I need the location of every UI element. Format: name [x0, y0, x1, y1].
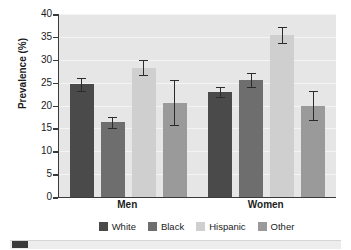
error-bar-cap-upper	[108, 117, 117, 118]
error-bar-cap-upper	[216, 87, 225, 88]
group-label-men: Men	[58, 199, 197, 210]
legend-swatch-icon	[148, 222, 157, 231]
y-axis-tick-label: 25	[24, 77, 52, 88]
bar-white-women	[208, 92, 232, 197]
footer-swatch	[12, 241, 28, 248]
error-bar-cap-upper	[139, 60, 148, 61]
error-bar-cap-upper	[247, 73, 256, 74]
error-bar-cap-lower	[139, 75, 148, 76]
bar-black-women	[239, 80, 263, 197]
footer-strip	[10, 240, 341, 249]
error-bar-line	[313, 91, 314, 120]
y-axis-tick-label: 15	[24, 122, 52, 133]
error-bar-line	[220, 87, 221, 97]
error-bar-line	[251, 73, 252, 87]
bar-hispanic-men	[132, 68, 156, 197]
bar-black-men	[101, 122, 125, 197]
error-bar-cap-upper	[309, 91, 318, 92]
error-bar-line	[143, 60, 144, 75]
error-bar-cap-upper	[278, 27, 287, 28]
y-axis-tick-label: 10	[24, 145, 52, 156]
legend-swatch-icon	[99, 222, 108, 231]
group-label-women: Women	[197, 199, 336, 210]
error-bar-line	[282, 27, 283, 43]
gridline	[59, 83, 336, 84]
chart-legend: WhiteBlackHispanicOther	[58, 221, 335, 232]
error-bar-cap-lower	[247, 87, 256, 88]
legend-item-other[interactable]: Other	[258, 221, 295, 232]
gridline	[59, 14, 336, 15]
legend-label: White	[112, 221, 136, 232]
gridline	[59, 106, 336, 107]
gridline	[59, 37, 336, 38]
error-bar-cap-lower	[309, 120, 318, 121]
y-axis-tick-label: 35	[24, 31, 52, 42]
y-axis-tick-label: 5	[24, 168, 52, 179]
error-bar-cap-lower	[278, 43, 287, 44]
legend-swatch-icon	[196, 222, 205, 231]
legend-swatch-icon	[258, 222, 267, 231]
legend-item-black[interactable]: Black	[148, 221, 184, 232]
legend-label: Hispanic	[209, 221, 245, 232]
bar-hispanic-women	[270, 35, 294, 197]
error-bar-cap-lower	[216, 97, 225, 98]
legend-item-white[interactable]: White	[99, 221, 136, 232]
error-bar-line	[81, 78, 82, 91]
error-bar-cap-lower	[108, 128, 117, 129]
error-bar-line	[174, 80, 175, 125]
chart-container: Prevalence (%) 4035302520151050 MenWomen…	[0, 0, 351, 250]
gridline	[59, 60, 336, 61]
y-axis-tick-label: 20	[24, 100, 52, 111]
legend-label: Other	[271, 221, 295, 232]
legend-item-hispanic[interactable]: Hispanic	[196, 221, 245, 232]
error-bar-cap-upper	[77, 78, 86, 79]
plot-area	[58, 14, 336, 198]
legend-label: Black	[161, 221, 184, 232]
error-bar-line	[112, 117, 113, 128]
y-axis-tick-label: 40	[24, 8, 52, 19]
error-bar-cap-upper	[170, 80, 179, 81]
error-bar-cap-lower	[170, 125, 179, 126]
error-bar-cap-lower	[77, 91, 86, 92]
y-axis-tick-label: 30	[24, 54, 52, 65]
y-axis-tick-label: 0	[24, 191, 52, 202]
bar-white-men	[70, 84, 94, 197]
